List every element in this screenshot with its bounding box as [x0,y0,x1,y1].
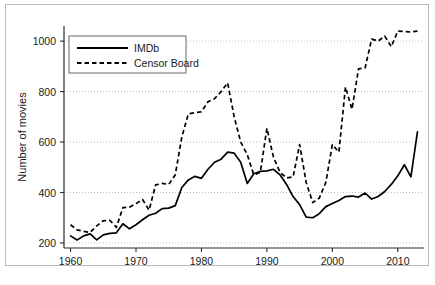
x-tick-label-1970: 1970 [124,255,148,267]
y-tick-label-400: 400 [38,187,56,199]
y-tick-label-200: 200 [38,237,56,249]
x-tick-label-2010: 2010 [386,255,410,267]
y-tick-labels: 2004006008001000 [33,35,57,249]
x-tick-group [71,248,398,252]
chart-legend: IMDb Censor Board [69,36,199,73]
x-tick-labels: 196019701980199020002010 [59,255,410,267]
y-axis-title: Number of movies [16,92,28,182]
y-tick-label-600: 600 [38,136,56,148]
legend-label-imdb: IMDb [134,42,159,54]
x-tick-label-1990: 1990 [255,255,279,267]
x-tick-label-1980: 1980 [190,255,214,267]
line-chart-plot: 2004006008001000 19601970198019902000201… [0,0,435,285]
x-tick-label-2000: 2000 [321,255,345,267]
chart-figure: 2004006008001000 19601970198019902000201… [0,0,435,285]
series-line-imdb [71,132,418,240]
y-tick-label-800: 800 [38,86,56,98]
y-tick-label-1000: 1000 [33,35,57,47]
legend-label-censor-board: Censor Board [134,57,199,69]
x-tick-label-1960: 1960 [59,255,83,267]
